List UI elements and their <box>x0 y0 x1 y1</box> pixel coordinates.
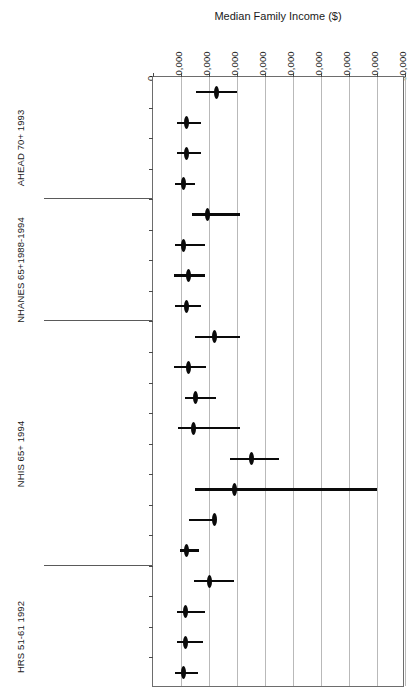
x-axis-tick <box>153 73 154 77</box>
confidence-interval-bar <box>192 213 240 215</box>
x-axis-tick <box>349 73 350 77</box>
data-point-marker <box>183 605 188 618</box>
y-axis-tick <box>149 505 153 506</box>
y-axis-tick <box>149 169 153 170</box>
data-point-marker <box>212 513 217 526</box>
gridline <box>265 77 266 686</box>
group-label: NHIS 65+ 1994 <box>15 420 26 487</box>
y-axis-tick <box>149 352 153 353</box>
median-family-income-figure: Median Family Income ($) 010,00020,00030… <box>0 0 418 700</box>
plot-area <box>152 76 404 687</box>
group-divider <box>44 198 152 199</box>
gridline <box>321 77 322 686</box>
confidence-interval-bar <box>194 580 235 582</box>
x-axis-tick <box>181 73 182 77</box>
confidence-interval-bar <box>178 427 240 429</box>
confidence-interval-bar <box>185 397 216 399</box>
data-point-marker <box>232 483 237 496</box>
group-divider <box>44 565 152 566</box>
data-point-marker <box>186 361 191 374</box>
y-axis-tick <box>149 321 153 322</box>
data-point-marker <box>183 636 188 649</box>
x-axis-tick <box>405 73 406 77</box>
y-axis-tick <box>149 413 153 414</box>
data-point-marker <box>181 666 186 679</box>
y-axis-tick <box>149 138 153 139</box>
gridline <box>237 77 238 686</box>
confidence-interval-bar <box>195 336 240 338</box>
y-axis-tick <box>149 535 153 536</box>
data-point-marker <box>184 300 189 313</box>
y-axis-tick <box>149 260 153 261</box>
x-axis-tick <box>293 73 294 77</box>
y-axis-tick <box>149 199 153 200</box>
data-point-marker <box>181 239 186 252</box>
gridline <box>405 77 406 686</box>
y-axis-tick <box>149 657 153 658</box>
data-point-marker <box>249 452 254 465</box>
y-axis-tick <box>149 566 153 567</box>
data-point-marker <box>207 575 212 588</box>
group-label: AHEAD 70+ 1993 <box>15 110 26 187</box>
confidence-interval-bar <box>195 488 377 490</box>
gridline <box>209 77 210 686</box>
x-axis-tick <box>377 73 378 77</box>
gridline <box>377 77 378 686</box>
y-axis-tick <box>149 627 153 628</box>
gridline <box>293 77 294 686</box>
x-axis-tick <box>209 73 210 77</box>
data-point-marker <box>181 177 186 190</box>
y-axis-tick <box>149 291 153 292</box>
gridline <box>349 77 350 686</box>
y-axis-tick <box>149 444 153 445</box>
data-point-marker <box>193 391 198 404</box>
y-axis-tick <box>149 596 153 597</box>
data-point-marker <box>184 544 189 557</box>
confidence-interval-bar <box>175 244 204 246</box>
data-point-marker <box>214 86 219 99</box>
confidence-interval-bar <box>175 672 197 674</box>
y-axis-tick <box>149 474 153 475</box>
data-point-marker <box>212 330 217 343</box>
data-point-marker <box>186 269 191 282</box>
gridline <box>181 77 182 686</box>
confidence-interval-bar <box>177 641 204 643</box>
data-point-marker <box>184 147 189 160</box>
group-label: NHANES 65+1988-1994 <box>15 217 26 323</box>
y-axis-tick <box>149 230 153 231</box>
x-axis-tick <box>237 73 238 77</box>
confidence-interval-bar <box>230 458 279 460</box>
y-axis-tick <box>149 383 153 384</box>
group-label: HRS 51-61 1992 <box>15 601 26 673</box>
confidence-interval-bar <box>180 549 200 551</box>
x-axis-tick <box>321 73 322 77</box>
confidence-interval-bar <box>177 611 205 613</box>
x-axis-tick <box>265 73 266 77</box>
group-divider <box>44 320 152 321</box>
data-point-marker <box>191 422 196 435</box>
data-point-marker <box>184 116 189 129</box>
y-axis-tick <box>149 108 153 109</box>
